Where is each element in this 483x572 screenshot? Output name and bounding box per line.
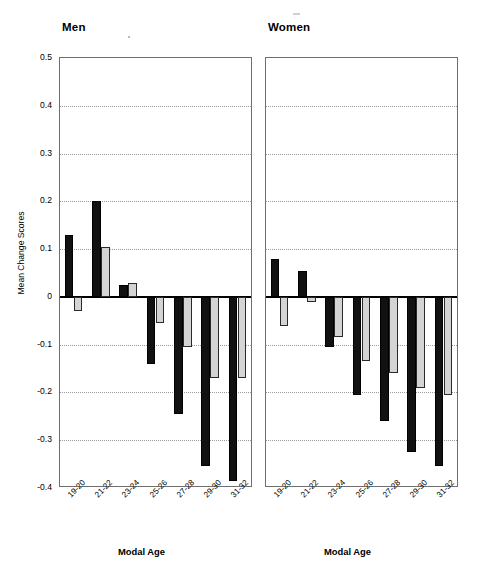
- bar-unadjusted: [407, 297, 416, 452]
- plot-panel-men: [59, 57, 252, 487]
- y-axis-tick-label: 0.4: [26, 101, 52, 110]
- bar-unadjusted: [353, 297, 362, 395]
- bar-adjusted: [307, 297, 316, 302]
- bar-group: [348, 58, 375, 486]
- bar-group: [196, 58, 223, 486]
- scan-speck: [128, 36, 130, 38]
- y-axis-tick-label: 0.3: [26, 149, 52, 158]
- bar-unadjusted: [435, 297, 444, 467]
- bar-adjusted: [183, 297, 192, 347]
- bar-adjusted: [210, 297, 219, 378]
- bar-adjusted: [334, 297, 343, 338]
- bar-group: [402, 58, 429, 486]
- bar-unadjusted: [174, 297, 183, 414]
- bar-adjusted: [389, 297, 398, 373]
- bar-adjusted: [416, 297, 425, 388]
- bar-group: [321, 58, 348, 486]
- plot-area-men: [60, 58, 251, 486]
- bar-adjusted: [156, 297, 165, 323]
- bar-unadjusted: [298, 271, 307, 297]
- bar-group: [266, 58, 293, 486]
- bar-unadjusted: [65, 235, 74, 297]
- y-axis-tick-label: 0.1: [26, 244, 52, 253]
- y-axis-tick-label: -0.2: [26, 387, 52, 396]
- bar-adjusted: [280, 297, 289, 326]
- bar-group: [115, 58, 142, 486]
- bar-unadjusted: [201, 297, 210, 467]
- bar-group: [224, 58, 251, 486]
- bar-unadjusted: [147, 297, 156, 364]
- bar-group: [430, 58, 457, 486]
- x-axis-title-women: Modal Age: [324, 546, 371, 557]
- panel-title-men: Men: [62, 21, 86, 33]
- chart-figure: Men Women Mean Change Scores 0.50.40.30.…: [0, 0, 483, 572]
- scan-speck: [293, 13, 300, 15]
- plot-panel-women: UnadjustedAdjusted: [265, 57, 458, 487]
- plot-area-women: [266, 58, 457, 486]
- panel-title-women: Women: [268, 21, 310, 33]
- bar-adjusted: [362, 297, 371, 362]
- y-axis-tick-labels: 0.50.40.30.20.10-0.1-0.2-0.3-0.4: [22, 0, 52, 572]
- bar-unadjusted: [271, 259, 280, 297]
- bar-group: [142, 58, 169, 486]
- bar-adjusted: [128, 283, 137, 297]
- bar-unadjusted: [92, 201, 101, 297]
- bar-adjusted: [101, 247, 110, 297]
- y-axis-tick-label: 0.5: [26, 53, 52, 62]
- bar-adjusted: [238, 297, 247, 378]
- bar-adjusted: [74, 297, 83, 311]
- bar-unadjusted: [229, 297, 238, 481]
- bar-group: [375, 58, 402, 486]
- y-axis-tick-label: 0: [26, 292, 52, 301]
- bar-adjusted: [444, 297, 453, 395]
- y-axis-tick-label: -0.4: [26, 483, 52, 492]
- bar-group: [60, 58, 87, 486]
- bar-group: [293, 58, 320, 486]
- bar-group: [87, 58, 114, 486]
- bar-unadjusted: [119, 285, 128, 297]
- y-axis-tick-label: -0.1: [26, 340, 52, 349]
- y-axis-tick-label: -0.3: [26, 435, 52, 444]
- x-axis-title-men: Modal Age: [118, 546, 165, 557]
- bar-group: [169, 58, 196, 486]
- y-axis-tick-label: 0.2: [26, 196, 52, 205]
- bar-unadjusted: [380, 297, 389, 421]
- bar-unadjusted: [325, 297, 334, 347]
